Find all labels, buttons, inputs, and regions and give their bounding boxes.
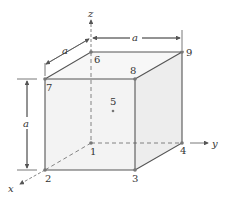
- node-9: [180, 50, 184, 54]
- node-label-7: 7: [46, 82, 52, 93]
- node-1: [89, 141, 93, 145]
- node-6: [89, 50, 93, 54]
- node-8: [133, 77, 137, 81]
- node-2: [43, 168, 47, 172]
- node-label-5: 5: [110, 96, 116, 107]
- axis-x: x: [8, 170, 45, 194]
- axis-y: y: [190, 138, 218, 149]
- node-label-3: 3: [132, 173, 138, 184]
- dimension-height-label: a: [23, 118, 29, 129]
- node-label-6: 6: [94, 54, 100, 65]
- node-label-8: 8: [130, 65, 136, 76]
- dimension-depth-label: a: [62, 45, 68, 56]
- node-label-4: 4: [180, 145, 186, 156]
- node-label-2: 2: [45, 173, 51, 184]
- node-label-9: 9: [186, 47, 192, 58]
- dimension-width-label: a: [132, 32, 138, 43]
- cube-diagram: z y x a a a 1: [0, 0, 231, 209]
- svg-text:z: z: [87, 8, 94, 19]
- node-label-1: 1: [90, 146, 96, 157]
- node-5: [112, 110, 115, 113]
- node-7: [43, 77, 47, 81]
- svg-text:y: y: [211, 138, 218, 149]
- axis-z: z: [87, 8, 94, 52]
- svg-text:x: x: [8, 183, 14, 194]
- node-3: [133, 168, 137, 172]
